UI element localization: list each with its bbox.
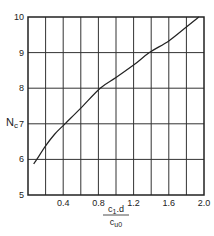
y-tick-label: 5 <box>19 190 24 200</box>
x-label-denominator: cu0 <box>110 217 122 228</box>
y-tick-label: 7 <box>19 119 24 129</box>
x-tick-label: 2.0 <box>198 198 211 208</box>
y-axis-label: Nc <box>6 116 18 130</box>
y-tick-label: 8 <box>19 83 24 93</box>
grid-lines <box>28 17 204 195</box>
y-tick-labels: 5678910 <box>14 12 24 200</box>
x-tick-labels: 0.40.81.21.62.0 <box>57 198 210 208</box>
y-tick-label: 9 <box>19 48 24 58</box>
x-tick-label: 0.4 <box>57 198 70 208</box>
x-axis-label: c1.d cu0 <box>103 204 129 228</box>
y-tick-label: 6 <box>19 154 24 164</box>
x-tick-label: 0.8 <box>92 198 105 208</box>
x-tick-label: 1.2 <box>127 198 140 208</box>
nc-chart: 5678910 0.40.81.21.62.0 Nc c1.d cu0 <box>0 0 214 236</box>
x-tick-label: 1.6 <box>163 198 176 208</box>
x-label-numerator: c1.d <box>108 204 124 215</box>
y-tick-label: 10 <box>14 12 24 22</box>
